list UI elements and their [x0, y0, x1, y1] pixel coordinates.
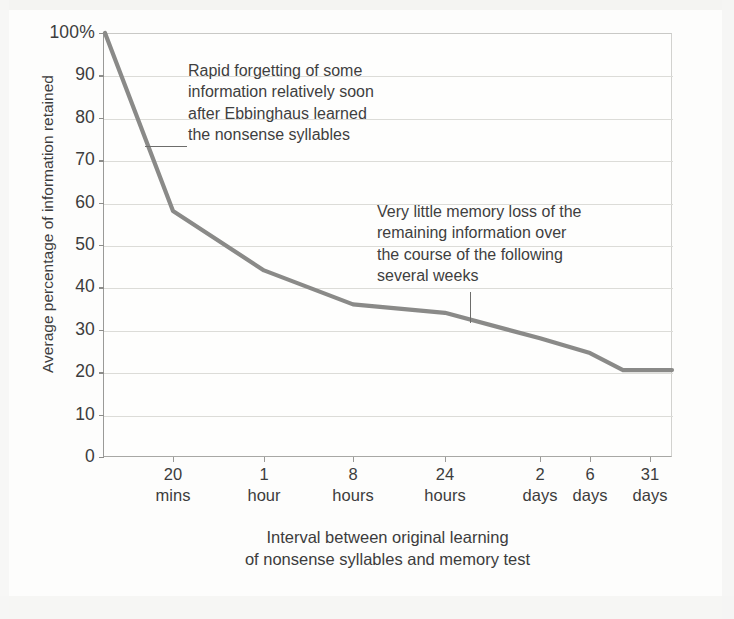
x-tick-label-value: 20: [128, 464, 218, 485]
y-tick-mark: [99, 75, 104, 76]
y-tick-mark: [99, 415, 104, 416]
x-tick-label-value: 8: [308, 464, 398, 485]
x-tick-label: 8hours: [308, 464, 398, 506]
x-tick-label: 24hours: [400, 464, 490, 506]
scan-artifact-top: [0, 0, 734, 10]
scan-artifact-left: [0, 0, 9, 619]
x-tick-mark: [173, 457, 174, 462]
x-axis-title-line1: Interval between original learning: [103, 527, 672, 549]
x-axis-title: Interval between original learning of no…: [103, 527, 672, 571]
x-tick-mark: [590, 457, 591, 462]
y-tick-mark: [99, 160, 104, 161]
x-tick-label-value: 31: [605, 464, 695, 485]
x-tick-label-value: 1: [219, 464, 309, 485]
y-axis-title: Average percentage of information retain…: [39, 24, 57, 424]
x-tick-mark: [650, 457, 651, 462]
x-axis-title-line2: of nonsense syllables and memory test: [103, 549, 672, 571]
y-tick-mark: [99, 33, 104, 34]
x-tick-label-unit: hours: [308, 485, 398, 506]
gridline: [104, 331, 673, 332]
x-tick-label: 31days: [605, 464, 695, 506]
y-tick-mark: [99, 118, 104, 119]
y-tick-mark: [99, 372, 104, 373]
y-tick-mark: [99, 287, 104, 288]
gridline: [104, 416, 673, 417]
y-tick-mark: [99, 245, 104, 246]
scan-artifact-bottom: [0, 596, 734, 619]
gridline: [104, 373, 673, 374]
scan-artifact-right: [722, 0, 734, 619]
x-tick-label-unit: hours: [400, 485, 490, 506]
x-tick-mark: [445, 457, 446, 462]
gridline: [104, 288, 673, 289]
x-tick-label-unit: hour: [219, 485, 309, 506]
x-tick-label-value: 24: [400, 464, 490, 485]
y-tick-label: 0: [43, 448, 95, 466]
x-tick-label-unit: days: [605, 485, 695, 506]
x-tick-mark: [353, 457, 354, 462]
annotation-leader-line-1: [145, 146, 187, 147]
x-tick-label: 20mins: [128, 464, 218, 506]
chart-figure: 100%9080706050403020100 Average percenta…: [0, 0, 734, 619]
x-tick-mark: [540, 457, 541, 462]
gridline: [104, 161, 673, 162]
annotation-rapid-forgetting: Rapid forgetting of some information rel…: [188, 60, 374, 145]
y-tick-mark: [99, 457, 104, 458]
annotation-leader-line-2: [470, 292, 471, 323]
x-tick-mark: [264, 457, 265, 462]
x-tick-label: 1hour: [219, 464, 309, 506]
x-tick-label-unit: mins: [128, 485, 218, 506]
y-tick-mark: [99, 330, 104, 331]
y-tick-mark: [99, 203, 104, 204]
annotation-little-memory-loss: Very little memory loss of the remaining…: [377, 201, 582, 286]
